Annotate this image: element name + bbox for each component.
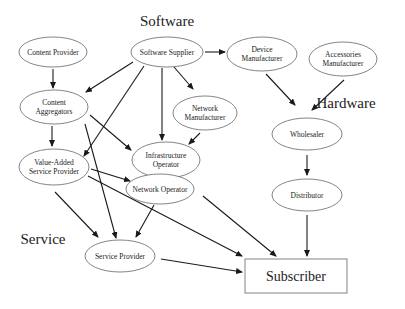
node-label: Content xyxy=(42,98,67,107)
node-label: Infrastructure xyxy=(146,151,187,160)
arrow-content-aggregators-to-service-provider xyxy=(85,124,116,238)
node-label: Manufacturer xyxy=(185,113,226,122)
node-service-provider: Service Provider xyxy=(85,240,155,272)
node-label: Manufacturer xyxy=(323,59,364,68)
arrow-service-provider-to-subscriber xyxy=(161,259,242,272)
node-label: Accessories xyxy=(325,50,361,59)
arrow-network-operator-to-service-provider xyxy=(136,205,154,237)
subscriber-box: Subscriber xyxy=(245,259,347,293)
node-label: Operator xyxy=(153,160,180,169)
node-wholesaler: Wholesaler xyxy=(272,118,342,150)
node-label: Service Provider xyxy=(29,167,80,176)
node-accessories-manufacturer: AccessoriesManufacturer xyxy=(309,42,377,76)
node-network-manufacturer: NetworkManufacturer xyxy=(173,96,237,130)
node-label: Manufacturer xyxy=(242,54,283,63)
node-label: Wholesaler xyxy=(290,130,325,139)
node-label: Network xyxy=(192,104,218,113)
value-chain-diagram: Content ProviderSoftware SupplierDeviceM… xyxy=(0,0,405,309)
node-label: Network Operator xyxy=(133,185,188,194)
arrow-network-operator-to-subscriber xyxy=(203,196,276,256)
node-content-provider: Content Provider xyxy=(19,37,87,67)
section-label-software: Software xyxy=(140,13,194,29)
arrow-software-supplier-to-network-manufacturer xyxy=(174,67,193,89)
section-label-hardware: Hardware xyxy=(316,95,375,111)
node-value-added-service-provider: Value-AddedService Provider xyxy=(19,149,89,185)
arrow-content-aggregators-to-infrastructure-operator xyxy=(90,115,131,150)
arrow-software-supplier-to-content-aggregators xyxy=(86,62,133,92)
arrow-software-supplier-to-value-added-service-provider xyxy=(84,66,144,156)
section-label-service: Service xyxy=(21,231,66,247)
node-device-manufacturer: DeviceManufacturer xyxy=(227,37,297,71)
node-label: Device xyxy=(251,45,273,54)
node-network-operator: Network Operator xyxy=(126,174,194,204)
node-content-aggregators: ContentAggregators xyxy=(20,90,88,124)
arrow-network-manufacturer-to-infrastructure-operator xyxy=(189,133,200,144)
node-label: Software Supplier xyxy=(140,48,195,57)
node-infrastructure-operator: InfrastructureOperator xyxy=(132,142,200,178)
node-label: Content Provider xyxy=(27,48,79,57)
arrow-device-manufacturer-to-wholesaler xyxy=(266,74,295,105)
arrow-value-added-service-provider-to-network-operator xyxy=(91,169,130,181)
nodes-layer: Content ProviderSoftware SupplierDeviceM… xyxy=(19,37,377,272)
node-label: Aggregators xyxy=(35,107,72,116)
node-label: Service Provider xyxy=(95,252,146,261)
subscriber-label: Subscriber xyxy=(266,269,326,284)
node-software-supplier: Software Supplier xyxy=(131,37,203,67)
node-label: Distributor xyxy=(291,191,324,200)
node-label: Value-Added xyxy=(34,158,74,167)
node-distributor: Distributor xyxy=(272,179,342,211)
